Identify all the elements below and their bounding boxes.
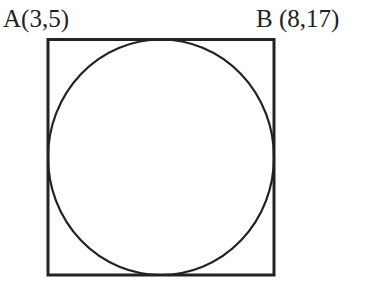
diagram-canvas xyxy=(0,0,380,288)
square xyxy=(48,40,274,276)
inscribed-circle xyxy=(48,40,274,276)
